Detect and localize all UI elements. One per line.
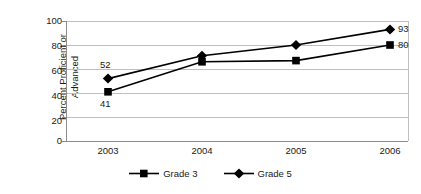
x-tick-label-2003: 2003 xyxy=(78,146,138,156)
x-tick-label-2004: 2004 xyxy=(172,146,232,156)
plot-area xyxy=(0,0,421,194)
data-point-grade3-2006 xyxy=(386,41,394,49)
data-point-grade5-2005 xyxy=(291,40,301,50)
legend-label-grade-3: Grade 3 xyxy=(163,168,197,179)
line-chart: Percent Proficient or Advanced 100 80 60… xyxy=(0,0,421,194)
plot-border xyxy=(66,21,408,141)
data-point-grade3-2005 xyxy=(292,57,300,65)
legend-square-marker-icon xyxy=(129,168,159,179)
data-point-grade5-2003 xyxy=(103,74,113,84)
y-axis-ticks xyxy=(62,21,66,141)
chart-legend: Grade 3 Grade 5 xyxy=(0,168,421,179)
data-label-grade3-2006: 80 xyxy=(398,40,409,50)
data-point-grade3-2003 xyxy=(104,88,112,96)
data-label-grade3-2003: 41 xyxy=(100,99,111,109)
legend-label-grade-5: Grade 5 xyxy=(258,168,292,179)
legend-item-grade-5[interactable]: Grade 5 xyxy=(224,168,292,179)
legend-diamond-marker-icon xyxy=(224,168,254,179)
data-point-grade5-2006 xyxy=(385,24,395,34)
data-label-grade5-2006: 93 xyxy=(398,24,409,34)
legend-item-grade-3[interactable]: Grade 3 xyxy=(129,168,197,179)
data-label-grade5-2003: 52 xyxy=(100,60,111,70)
x-tick-label-2006: 2006 xyxy=(360,146,420,156)
x-tick-label-2005: 2005 xyxy=(266,146,326,156)
series-grade-5 xyxy=(103,24,395,83)
